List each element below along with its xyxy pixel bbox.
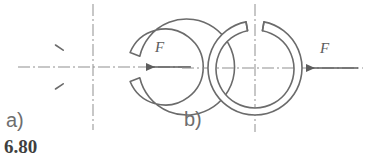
figure-caption: 6.80 [4,136,37,157]
gap-bevel-upper-a [56,45,64,50]
gap-bevel-lower-a [56,84,64,89]
part-label-b: b) [184,108,202,130]
engineering-drawing-svg: F a) F b) 6.80 [0,0,365,157]
force-label-b: F [319,40,330,56]
part-label-a: a) [6,109,24,131]
ring-part-b: F b) [182,4,363,132]
force-label-a: F [154,39,165,55]
figure-container: F a) F b) 6.80 [0,0,365,157]
